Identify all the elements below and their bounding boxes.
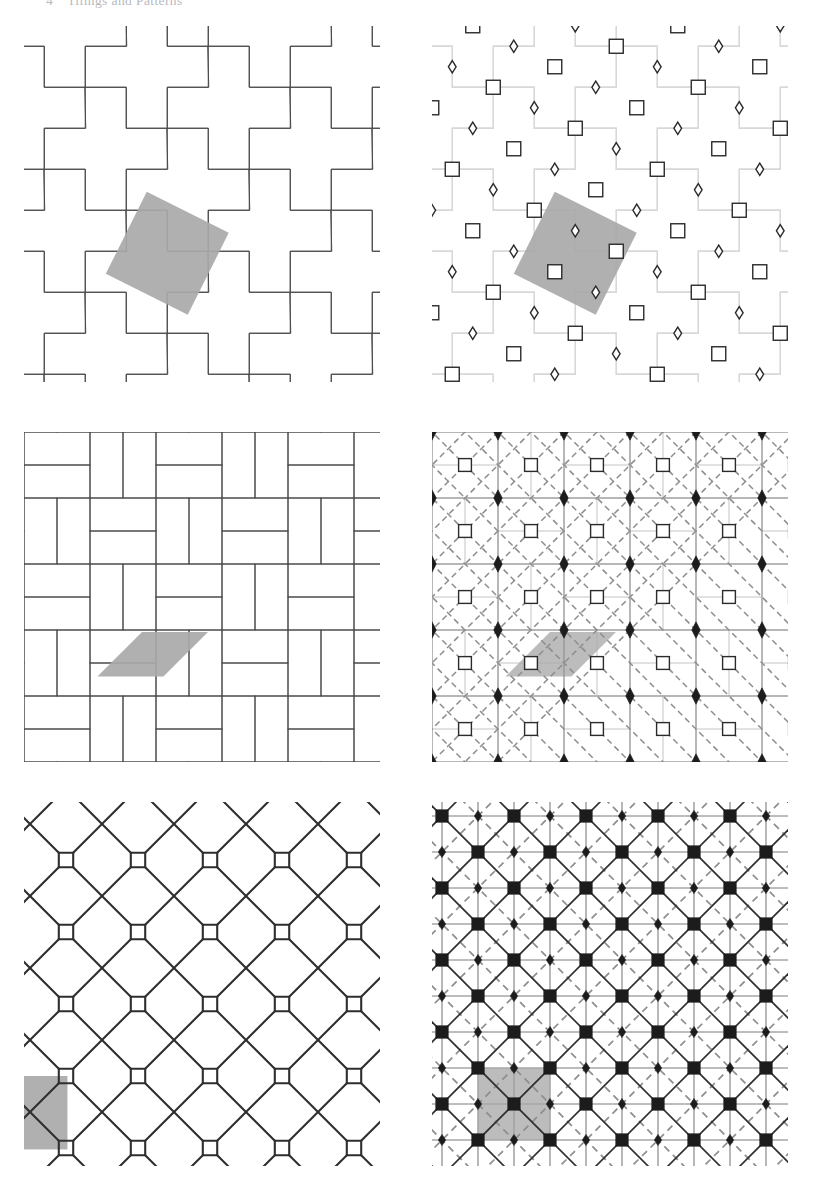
panel-top-left-cross-tiling <box>24 26 380 382</box>
basketweave-bricks <box>24 432 380 762</box>
panel-bottom-right-octagon-symmetry <box>432 802 788 1166</box>
running-head-title: Tilings and Patterns <box>67 0 183 8</box>
figure-page: 4Tilings and Patterns <box>0 0 816 1190</box>
rotation-centre-markers <box>432 26 788 382</box>
running-head: 4Tilings and Patterns <box>46 0 183 9</box>
panel-top-right-cross-symmetry <box>432 26 788 382</box>
panel-bottom-left-octagon-tiling <box>24 802 380 1166</box>
panel-middle-left-basketweave-tiling <box>24 432 380 762</box>
cross-tiling-lines <box>24 26 380 382</box>
unit-cell-highlight <box>97 632 208 677</box>
figure-grid <box>0 18 816 1178</box>
page-folio: 4 <box>46 0 53 8</box>
panel-middle-right-basketweave-symmetry <box>432 432 788 762</box>
octagon-star-lines <box>24 802 380 1166</box>
